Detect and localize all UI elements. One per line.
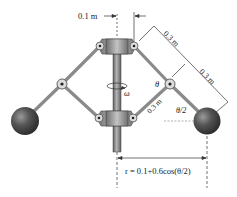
top-offset-dimension [104, 12, 146, 42]
governor-diagram: 0.1 m 0.3 m 0.3 m [0, 0, 237, 197]
left-ball [11, 107, 39, 135]
half-theta-label: θ/2 [176, 106, 186, 115]
pin-joint-icon [165, 79, 175, 89]
pin-joint-icon [96, 42, 104, 50]
pin-joint-icon [95, 114, 103, 122]
upper-link-length-label: 0.3 m [162, 29, 182, 49]
theta-label: θ [155, 79, 159, 89]
right-ball [194, 108, 221, 135]
pin-joint-icon [129, 114, 137, 122]
top-offset-label: 0.1 m [78, 11, 98, 21]
radius-dimension [117, 136, 207, 188]
pin-joint-icon [130, 42, 138, 50]
pin-joint-icon [57, 79, 67, 89]
angular-velocity-label: ω [124, 89, 130, 98]
rotating-shaft [113, 50, 121, 152]
lower-link-length-label: 0.3 m [198, 67, 218, 87]
inner-link-length-label: 0.3 m [145, 97, 164, 116]
radius-formula-label: r = 0.1+0.6cos(θ/2) [125, 166, 191, 176]
